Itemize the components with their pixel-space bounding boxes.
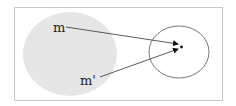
mapping-diagram: m m' <box>0 0 236 106</box>
label-m-prime: m' <box>80 73 96 88</box>
target-point-dot <box>180 46 183 49</box>
source-region-ellipse <box>23 12 117 96</box>
label-m: m <box>53 20 65 35</box>
